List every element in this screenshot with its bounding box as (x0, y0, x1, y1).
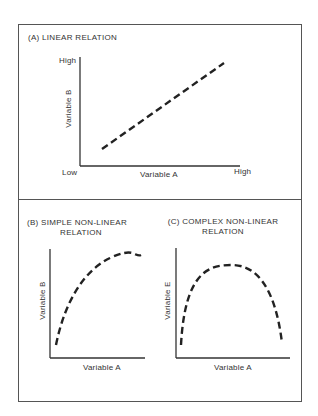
panel-a-x-axis-label: Variable A (140, 170, 178, 179)
panel-c-y-axis-label: Variable E (163, 281, 172, 321)
panel-a-linear-curve (102, 63, 224, 149)
panel-c-inverted-u-curve (181, 265, 282, 345)
panel-b-x-axis-label: Variable A (83, 363, 121, 372)
panel-b-title-line2: RELATION (26, 228, 136, 237)
panel-c-title-line1: (C) COMPLEX NON-LINEAR (163, 217, 283, 226)
panel-b-y-axis-label: Variable B (38, 281, 47, 321)
panel-a-x-low-label: Low (62, 168, 77, 177)
panel-a-y-high-label: High (59, 56, 76, 65)
panel-b-title-line1: (B) SIMPLE NON-LINEAR (22, 218, 132, 227)
panel-c-title-line2: RELATION (163, 227, 283, 236)
panel-c-x-axis-label: Variable A (214, 363, 252, 372)
panel-a-axes (80, 57, 240, 166)
panel-a-title: (A) LINEAR RELATION (28, 33, 117, 42)
panel-a-y-axis-label: Variable B (64, 89, 73, 129)
diagram-graphics (0, 0, 318, 416)
panel-b-concave-curve (56, 253, 141, 345)
panel-a-x-high-label: High (234, 167, 251, 176)
